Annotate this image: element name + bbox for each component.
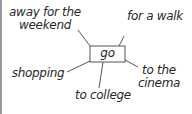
- line-top-right: [119, 36, 124, 46]
- center-word: go: [94, 47, 121, 60]
- line-left: [67, 61, 90, 72]
- line-bottom: [99, 62, 103, 88]
- branch-top-left: away for the weekend: [6, 6, 84, 32]
- line-top-left: [78, 30, 90, 46]
- branch-top-right: for a walk: [120, 10, 190, 23]
- branch-left: shopping: [8, 67, 68, 80]
- branch-bottom-right: to the cinema: [134, 64, 184, 90]
- branch-bottom: to college: [70, 89, 136, 102]
